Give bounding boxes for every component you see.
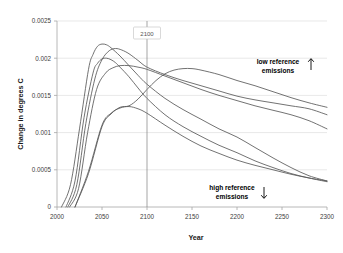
arrow-up-icon (308, 59, 314, 70)
chart-container: 00.00050.0010.00150.0020.0025 2000205021… (0, 0, 343, 253)
x-tick-label: 2000 (50, 213, 65, 220)
x-tick-label: 2100 (140, 213, 155, 220)
year-marker-badge: 2100 (134, 27, 161, 39)
x-tick-labels: 2000205021002150220022502300 (50, 213, 335, 220)
x-tick-label: 2250 (275, 213, 290, 220)
arrow-down-icon (261, 187, 267, 198)
y-tick-label: 0.0025 (32, 17, 52, 24)
y-tick-label: 0.002 (35, 55, 51, 62)
line-chart: 00.00050.0010.00150.0020.0025 2000205021… (0, 0, 343, 253)
y-tick-labels: 00.00050.0010.00150.0020.0025 (32, 17, 52, 210)
x-tick-label: 2050 (95, 213, 110, 220)
y-tick-label: 0 (47, 203, 51, 210)
y-axis-title: Change in degrees C (16, 78, 25, 150)
low-ref-line1: low reference (257, 58, 300, 65)
high-ref-line2: emissions (216, 193, 249, 200)
low-reference-emissions-annotation: low reference emissions (257, 58, 314, 74)
curve-curve-6-low-decline (75, 107, 327, 207)
high-reference-emissions-annotation: high reference emissions (209, 184, 267, 200)
curve-curve-4-plateau-high (70, 65, 327, 207)
y-tick-label: 0.001 (35, 129, 51, 136)
y-tick-label: 0.0005 (32, 166, 52, 173)
year-marker-label: 2100 (140, 31, 154, 37)
x-axis-title: Year (188, 233, 203, 242)
x-tick-label: 2200 (230, 213, 245, 220)
x-tick-label: 2150 (185, 213, 200, 220)
y-tick-label: 0.0015 (32, 92, 52, 99)
low-ref-line2: emissions (262, 67, 295, 74)
x-tick-label: 2300 (320, 213, 335, 220)
gridlines (57, 21, 327, 170)
high-ref-line1: high reference (209, 184, 255, 192)
